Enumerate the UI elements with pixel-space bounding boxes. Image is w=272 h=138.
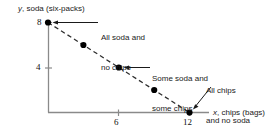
budget-constraint-chart: y, soda (six-packs) x, chips (bags) 8 4 … bbox=[0, 0, 272, 138]
annotation-all-soda-no-chips: All soda and no chips bbox=[101, 13, 145, 93]
annotation-line: some chips bbox=[152, 104, 208, 114]
y-tick-label-4: 4 bbox=[36, 62, 41, 72]
annotation-line: no chips bbox=[101, 63, 145, 73]
annotation-all-chips-no-soda: All chips and no soda bbox=[206, 66, 250, 138]
y-axis-units: , soda (six-packs) bbox=[22, 4, 85, 13]
y-axis-label: y, soda (six-packs) bbox=[18, 4, 85, 13]
annotation-line: All soda and bbox=[101, 33, 145, 43]
annotation-line: Some soda and bbox=[152, 74, 208, 84]
data-point-marker bbox=[45, 19, 51, 25]
data-point-marker bbox=[80, 42, 86, 48]
annotation-line: and no soda bbox=[206, 116, 250, 126]
annotation-some-soda-some-chips: Some soda and some chips bbox=[152, 54, 208, 134]
annotation-arrow-all-soda bbox=[53, 20, 99, 24]
annotation-line: All chips bbox=[206, 86, 250, 96]
y-tick-label-8: 8 bbox=[37, 17, 42, 27]
x-tick-label-6: 6 bbox=[114, 117, 119, 127]
